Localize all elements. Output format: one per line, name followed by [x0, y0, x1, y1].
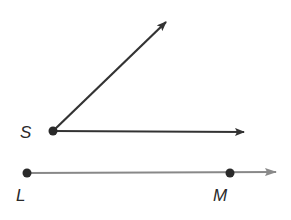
label-s: S [20, 123, 32, 142]
label-l: L [16, 186, 25, 205]
point-s [49, 127, 58, 136]
label-m: M [213, 186, 228, 205]
point-m [226, 169, 235, 178]
ray-s-upper [53, 22, 166, 131]
geometry-figure: S L M [0, 0, 291, 220]
point-l [23, 169, 32, 178]
ray-lm: L M [16, 169, 276, 206]
ray-s-horizontal [53, 131, 244, 132]
angle-s: S [20, 22, 244, 142]
ray-lm-line [27, 172, 276, 173]
